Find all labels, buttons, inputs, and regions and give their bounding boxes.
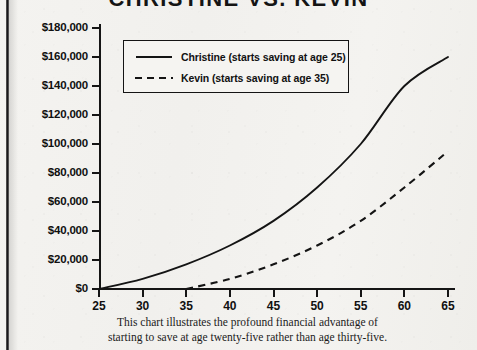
legend-label-kevin: Kevin (starts saving at age 35) [181,72,329,84]
caption-line-2: starting to save at age twenty-five rath… [30,330,465,345]
series-kevin-line [186,151,448,289]
chart-legend: Christine (starts saving at age 25) Kevi… [123,40,349,93]
legend-entry-kevin: Kevin (starts saving at age 35) [134,70,342,86]
chart-caption: This chart illustrates the profound fina… [30,315,465,344]
chart-plot-area: $180,000$160,000$140,000$120,000$100,000… [0,0,477,350]
legend-swatch-dashed-line-icon [134,72,174,84]
chart-page: CHRISTINE VS. KEVIN $180,000$160,000$140… [0,0,477,350]
legend-entry-christine: Christine (starts saving at age 25) [134,49,342,65]
legend-label-christine: Christine (starts saving at age 25) [181,51,346,63]
caption-line-1: This chart illustrates the profound fina… [30,315,465,330]
legend-swatch-solid-line-icon [134,51,174,63]
